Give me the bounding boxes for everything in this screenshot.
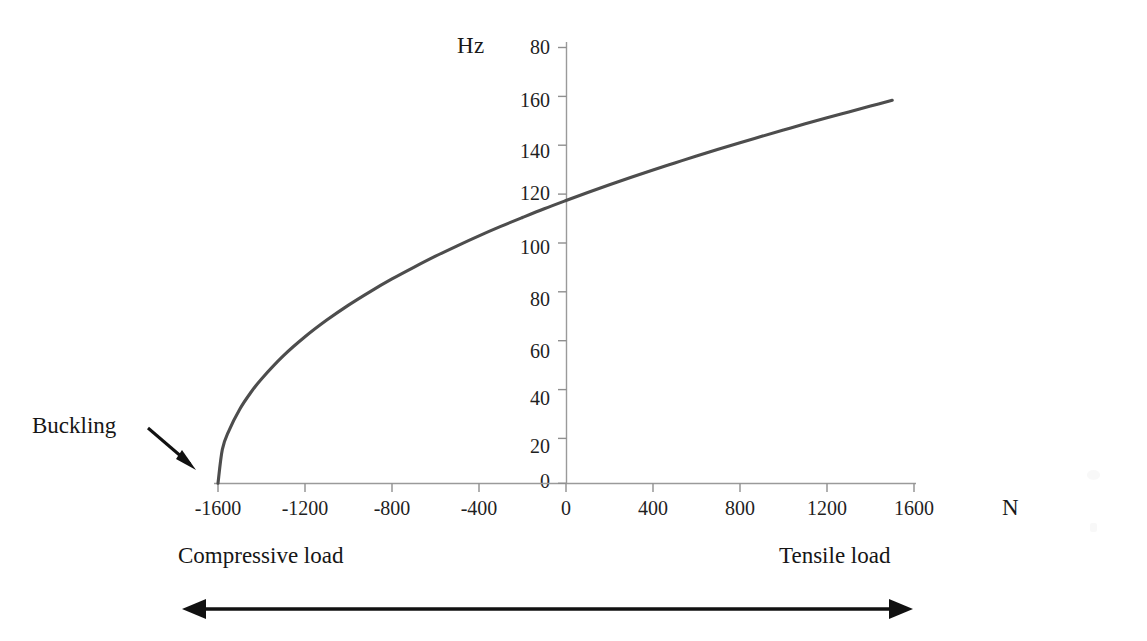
buckling-arrow [148,428,196,470]
frequency-load-curve [218,100,892,483]
x-axis-ticks [218,484,914,493]
chart-canvas [0,0,1147,641]
y-axis-ticks [558,48,567,484]
load-direction-arrow [182,599,913,619]
chart-page: Hz N 80 160 140 120 100 80 60 40 20 0 -1… [0,0,1147,641]
